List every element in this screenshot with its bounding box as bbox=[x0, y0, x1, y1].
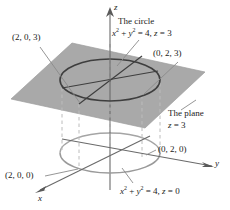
base-equation-label: x2 + y2 = 4, z = 0 bbox=[120, 186, 180, 196]
point-label-0-2-0: (0, 2, 0) bbox=[158, 144, 187, 154]
lower-y-axis-line bbox=[62, 139, 212, 166]
point-label-0-2-3: (0, 2, 3) bbox=[153, 48, 182, 58]
plane-equation-label: z = 3 bbox=[168, 120, 186, 130]
y-axis-label: y bbox=[215, 158, 219, 168]
figure-canvas: z y x The circle x2 + y2 = 4, z = 3 (2, … bbox=[0, 0, 230, 210]
lower-x-axis-line bbox=[40, 136, 150, 190]
point-label-2-0-0: (2, 0, 0) bbox=[5, 170, 34, 180]
x-axis-label: x bbox=[38, 193, 42, 203]
z-axis-label: z bbox=[114, 2, 118, 12]
circle-equation-label: x2 + y2 = 4, z = 3 bbox=[112, 28, 172, 38]
leader-point-200 bbox=[45, 169, 78, 176]
point-label-2-0-3: (2, 0, 3) bbox=[12, 32, 41, 42]
plane-title-label: The plane bbox=[168, 108, 204, 118]
circle-title-label: The circle bbox=[118, 16, 154, 26]
x-axis-arrowhead bbox=[35, 186, 47, 193]
leader-point-020 bbox=[146, 150, 156, 155]
leader-base-equation bbox=[122, 168, 133, 183]
